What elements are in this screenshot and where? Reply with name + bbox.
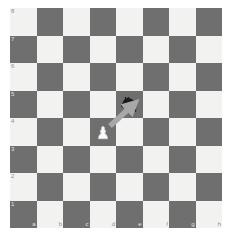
square-e1[interactable]: e: [116, 201, 143, 229]
rank-label-2: 2: [11, 173, 14, 180]
square-d5[interactable]: [90, 91, 117, 119]
square-f4[interactable]: [143, 118, 170, 146]
square-c4[interactable]: [63, 118, 90, 146]
square-f6[interactable]: [143, 63, 170, 91]
square-e7[interactable]: [116, 36, 143, 64]
chess-board[interactable]: 87654321abcdefgh: [10, 8, 222, 228]
square-g1[interactable]: g: [169, 201, 196, 229]
square-g7[interactable]: [169, 36, 196, 64]
square-f7[interactable]: [143, 36, 170, 64]
square-c2[interactable]: [63, 173, 90, 201]
square-b6[interactable]: [37, 63, 64, 91]
square-b3[interactable]: [37, 146, 64, 174]
file-label-e: e: [138, 221, 141, 228]
square-a3[interactable]: 3: [10, 146, 37, 174]
square-d6[interactable]: [90, 63, 117, 91]
square-c7[interactable]: [63, 36, 90, 64]
square-g8[interactable]: [169, 8, 196, 36]
file-label-b: b: [59, 221, 62, 228]
square-g4[interactable]: [169, 118, 196, 146]
rank-label-4: 4: [11, 118, 14, 125]
square-f2[interactable]: [143, 173, 170, 201]
square-c3[interactable]: [63, 146, 90, 174]
square-g2[interactable]: [169, 173, 196, 201]
square-d2[interactable]: [90, 173, 117, 201]
square-b5[interactable]: [37, 91, 64, 119]
file-label-c: c: [86, 221, 89, 228]
square-b8[interactable]: [37, 8, 64, 36]
square-f1[interactable]: f: [143, 201, 170, 229]
square-a4[interactable]: 4: [10, 118, 37, 146]
square-e2[interactable]: [116, 173, 143, 201]
square-b2[interactable]: [37, 173, 64, 201]
rank-label-8: 8: [11, 8, 14, 15]
square-h1[interactable]: h: [196, 201, 223, 229]
square-g3[interactable]: [169, 146, 196, 174]
square-e3[interactable]: [116, 146, 143, 174]
square-h2[interactable]: [196, 173, 223, 201]
square-c8[interactable]: [63, 8, 90, 36]
black-knight-e5[interactable]: [116, 91, 143, 119]
rank-label-5: 5: [11, 91, 14, 98]
rank-label-1: 1: [11, 201, 14, 208]
file-label-g: g: [191, 221, 194, 228]
rank-label-3: 3: [11, 146, 14, 153]
square-f3[interactable]: [143, 146, 170, 174]
square-e5[interactable]: [116, 91, 143, 119]
square-h7[interactable]: [196, 36, 223, 64]
square-a7[interactable]: 7: [10, 36, 37, 64]
square-b4[interactable]: [37, 118, 64, 146]
white-pawn-d4[interactable]: [90, 118, 117, 146]
square-d7[interactable]: [90, 36, 117, 64]
square-g6[interactable]: [169, 63, 196, 91]
square-f8[interactable]: [143, 8, 170, 36]
square-e8[interactable]: [116, 8, 143, 36]
file-label-f: f: [166, 221, 168, 228]
square-h4[interactable]: [196, 118, 223, 146]
rank-label-6: 6: [11, 63, 14, 70]
chess-board-wrapper: 87654321abcdefgh: [10, 8, 222, 228]
square-e4[interactable]: [116, 118, 143, 146]
square-g5[interactable]: [169, 91, 196, 119]
square-h6[interactable]: [196, 63, 223, 91]
square-a8[interactable]: 8: [10, 8, 37, 36]
square-e6[interactable]: [116, 63, 143, 91]
square-h5[interactable]: [196, 91, 223, 119]
square-d4[interactable]: [90, 118, 117, 146]
square-h8[interactable]: [196, 8, 223, 36]
square-b1[interactable]: b: [37, 201, 64, 229]
square-b7[interactable]: [37, 36, 64, 64]
file-label-a: a: [32, 221, 35, 228]
square-a2[interactable]: 2: [10, 173, 37, 201]
square-d3[interactable]: [90, 146, 117, 174]
file-label-d: d: [112, 221, 115, 228]
rank-label-7: 7: [11, 36, 14, 43]
square-c1[interactable]: c: [63, 201, 90, 229]
square-a1[interactable]: 1a: [10, 201, 37, 229]
square-d1[interactable]: d: [90, 201, 117, 229]
square-c6[interactable]: [63, 63, 90, 91]
square-c5[interactable]: [63, 91, 90, 119]
square-d8[interactable]: [90, 8, 117, 36]
square-f5[interactable]: [143, 91, 170, 119]
square-a6[interactable]: 6: [10, 63, 37, 91]
square-h3[interactable]: [196, 146, 223, 174]
file-label-h: h: [218, 221, 221, 228]
square-a5[interactable]: 5: [10, 91, 37, 119]
